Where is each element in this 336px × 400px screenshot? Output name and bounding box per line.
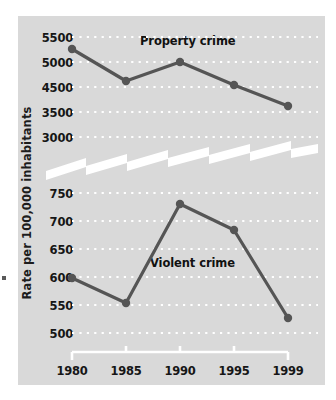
chart-figure: Rate per 100,000 inhabitants 5500 5000 4… (0, 0, 336, 400)
y-tick-label-upper-0: 5500 (25, 31, 73, 45)
y-tick-label-upper-4: 3000 (25, 131, 73, 145)
y-tick-label-lower-0: 750 (25, 187, 73, 201)
x-tick-label-4: 1999 (258, 364, 318, 378)
x-tick-label-0: 1980 (42, 364, 102, 378)
y-tick-label-lower-5: 500 (25, 327, 73, 341)
x-tick-label-3: 1995 (204, 364, 264, 378)
y-tick-label-upper-2: 4500 (25, 81, 73, 95)
page-edge-artifact (2, 276, 6, 280)
property-crime-label: Property crime (140, 34, 236, 48)
y-tick-label-lower-1: 700 (25, 215, 73, 229)
y-tick-label-lower-4: 550 (25, 299, 73, 313)
y-tick-label-lower-2: 650 (25, 243, 73, 257)
x-tick-label-2: 1990 (150, 364, 210, 378)
x-tick-label-1: 1985 (96, 364, 156, 378)
y-tick-label-upper-1: 5000 (25, 56, 73, 70)
y-tick-label-upper-3: 3500 (25, 106, 73, 120)
violent-crime-label: Violent crime (150, 256, 235, 270)
y-tick-label-lower-3: 600 (25, 271, 73, 285)
